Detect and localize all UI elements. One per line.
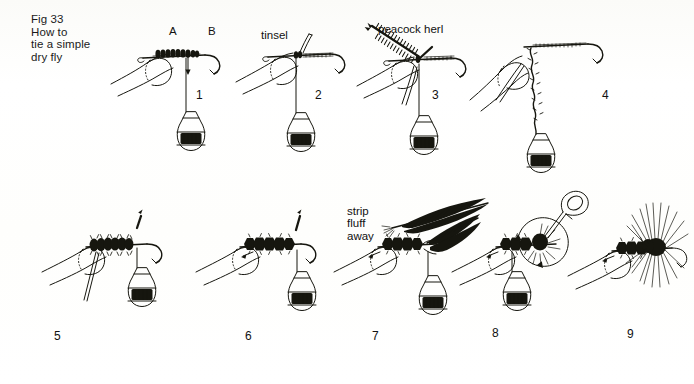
panel-number-2: 2 xyxy=(315,89,322,101)
panel-4-art xyxy=(470,43,603,173)
panel-number-3: 3 xyxy=(432,89,439,101)
panel-8-art xyxy=(452,191,588,310)
panel-number-1: 1 xyxy=(196,89,203,101)
panel-2-art xyxy=(236,34,345,152)
panel-3-art xyxy=(357,23,466,155)
panel-number-9: 9 xyxy=(627,328,634,340)
line-art-illustration xyxy=(0,0,694,384)
figure-canvas: Fig 33 How to tie a simple dry fly xyxy=(0,0,694,384)
figure-caption: Fig 33 How to tie a simple dry fly xyxy=(31,13,90,63)
paper-background xyxy=(0,0,694,384)
panel-number-7: 7 xyxy=(372,330,379,342)
label-point-b: B xyxy=(208,26,216,38)
panel-number-5: 5 xyxy=(54,330,61,342)
panel-6-art xyxy=(196,210,316,311)
panel-9-art xyxy=(568,203,688,289)
panel-number-4: 4 xyxy=(602,89,609,101)
label-peacock-herl: peacock herl xyxy=(378,23,443,35)
panel-number-6: 6 xyxy=(245,330,252,342)
label-point-a: A xyxy=(169,26,177,38)
label-strip-fluff-away: strip fluff away xyxy=(347,205,374,242)
label-tinsel: tinsel xyxy=(261,29,288,41)
panel-5-art xyxy=(42,209,162,306)
panel-number-8: 8 xyxy=(492,327,499,339)
panel-1-art xyxy=(111,49,220,151)
